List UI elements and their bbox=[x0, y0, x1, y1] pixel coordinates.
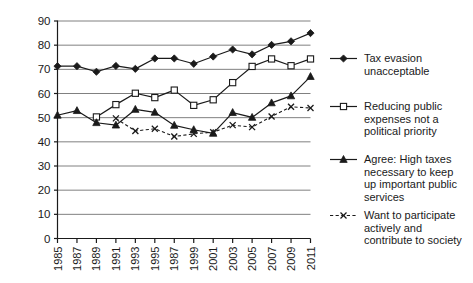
x-axis-tick-label: 2009 bbox=[285, 247, 297, 271]
x-axis-tick-label: 2003 bbox=[227, 247, 239, 271]
y-axis-tick-label: 20 bbox=[38, 184, 51, 196]
x-axis-tick-label: 1995 bbox=[149, 247, 161, 271]
y-axis-tick-label: 10 bbox=[38, 208, 51, 220]
data-point-square bbox=[249, 63, 255, 69]
x-axis-tick-label: 1985 bbox=[52, 247, 64, 271]
legend-label: necessary to keep bbox=[364, 166, 453, 178]
y-axis-tick-label: 80 bbox=[38, 39, 51, 51]
legend-label: contribute to society bbox=[364, 234, 462, 246]
y-axis-tick-label: 30 bbox=[38, 160, 51, 172]
data-point-square bbox=[268, 56, 274, 62]
x-axis-tick-label: 2005 bbox=[246, 247, 258, 271]
x-axis-tick-label: 1999 bbox=[188, 247, 200, 271]
data-point-square bbox=[288, 63, 294, 69]
y-axis-tick-label: 60 bbox=[38, 88, 51, 100]
legend-label: services bbox=[364, 191, 405, 203]
legend-label: Reducing public bbox=[364, 100, 443, 112]
legend-label: actively and bbox=[364, 222, 422, 234]
x-axis-tick-label: 2011 bbox=[305, 247, 317, 271]
data-point-square bbox=[132, 90, 138, 96]
data-point-square bbox=[152, 95, 158, 101]
data-point-square bbox=[171, 87, 177, 93]
x-axis-tick-label: 1989 bbox=[90, 247, 102, 271]
data-point-square bbox=[307, 56, 313, 62]
x-axis-tick-label: 2007 bbox=[266, 247, 278, 271]
data-point-square bbox=[113, 102, 119, 108]
data-point-square bbox=[210, 97, 216, 103]
legend-label: unacceptable bbox=[364, 65, 429, 77]
x-axis-tick-label: 2001 bbox=[207, 247, 219, 271]
legend-label: Agree: High taxes bbox=[364, 153, 452, 165]
line-chart: 0102030405060708090 19851987198919911993… bbox=[0, 0, 473, 283]
legend-label: political priority bbox=[364, 125, 437, 137]
y-axis-tick-label: 50 bbox=[38, 112, 51, 124]
y-axis-tick-label: 0 bbox=[44, 233, 50, 245]
x-axis-tick-label: 1991 bbox=[110, 247, 122, 271]
legend-label: Want to participate bbox=[364, 209, 455, 221]
data-point-square bbox=[230, 80, 236, 86]
data-point-square bbox=[191, 102, 197, 108]
data-point-square bbox=[340, 103, 346, 109]
y-axis-tick-label: 40 bbox=[38, 136, 51, 148]
y-axis-tick-label: 70 bbox=[38, 63, 51, 75]
x-axis-tick-label: 1987 bbox=[71, 247, 83, 271]
legend-label: up important public bbox=[364, 178, 457, 190]
x-axis-tick-label: 1993 bbox=[129, 247, 141, 271]
y-axis-tick-label: 90 bbox=[38, 15, 51, 27]
legend-label: Tax evasion bbox=[364, 52, 422, 64]
legend-label: expenses not a bbox=[364, 113, 439, 125]
x-axis-tick-label: 1987 bbox=[168, 247, 180, 271]
